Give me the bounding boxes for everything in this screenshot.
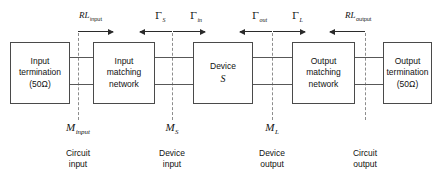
block-output-termination: Output termination (50Ω) xyxy=(383,42,432,104)
plane-caption-device-input: Device input xyxy=(142,148,202,170)
wire-bot-device-to-omn xyxy=(252,84,293,85)
label-gamma-l-subscript: L xyxy=(299,17,303,23)
reference-plane-m-l xyxy=(272,33,273,120)
block-label-s-parameter: S xyxy=(221,73,226,85)
block-label-line1: Output xyxy=(395,56,421,68)
block-label-line2: matching xyxy=(306,67,341,79)
arrow-rl-output xyxy=(330,31,365,32)
plane-caption-line1: Device xyxy=(259,148,285,158)
label-rl-output-symbol: RL xyxy=(345,10,356,20)
wire-top-imn-to-device xyxy=(154,57,194,58)
label-gamma-l: ΓL xyxy=(292,10,303,23)
label-gamma-s: ΓS xyxy=(155,10,165,23)
plane-caption-line1: Device xyxy=(159,148,185,158)
plane-caption-device-output: Device output xyxy=(242,148,302,170)
wire-top-term-to-imn xyxy=(69,57,94,58)
plane-caption-line2: output xyxy=(260,159,284,169)
arrow-gamma-s xyxy=(140,31,172,32)
label-gamma-out: Γout xyxy=(252,10,267,23)
plane-caption-line1: Circuit xyxy=(353,148,377,158)
plane-caption-line2: input xyxy=(69,159,87,169)
label-gamma-s-symbol: Γ xyxy=(155,10,162,21)
label-rl-input-subscript: input xyxy=(90,16,102,22)
block-label-line1: Output xyxy=(311,56,337,68)
block-output-matching-network: Output matching network xyxy=(292,42,355,104)
plane-symbol-m-s-subscript: S xyxy=(175,128,179,136)
block-label-line3: (50Ω) xyxy=(397,79,418,91)
wire-top-omn-to-term xyxy=(354,57,384,58)
reference-plane-m-input xyxy=(78,33,79,120)
plane-symbol-m-input-base: M xyxy=(66,121,75,133)
arrow-gamma-in xyxy=(173,31,205,32)
block-label-line1: Input xyxy=(31,56,50,68)
label-gamma-in: Γin xyxy=(190,10,202,23)
plane-caption-line2: input xyxy=(163,159,181,169)
block-label-line2: termination xyxy=(386,67,428,79)
plane-symbol-m-l-base: M xyxy=(265,121,274,133)
block-label-line2: matching xyxy=(107,67,142,79)
plane-caption-circuit-output: Circuit output xyxy=(335,148,395,170)
plane-caption-line1: Circuit xyxy=(66,148,90,158)
block-label-line2: termination xyxy=(19,67,61,79)
label-rl-output-subscript: output xyxy=(356,16,372,22)
reference-plane-circuit-output xyxy=(365,33,366,120)
label-rl-input: RLinput xyxy=(79,10,102,22)
arrow-rl-input xyxy=(78,31,113,32)
label-gamma-out-symbol: Γ xyxy=(252,10,259,21)
label-gamma-s-subscript: S xyxy=(162,17,166,23)
label-rl-output: RLoutput xyxy=(345,10,371,22)
wire-bot-omn-to-term xyxy=(354,84,384,85)
plane-symbol-m-input: Minput xyxy=(48,121,108,136)
plane-caption-line2: output xyxy=(353,159,377,169)
block-label-line1: Input xyxy=(115,56,134,68)
plane-symbol-m-s: MS xyxy=(142,121,202,136)
label-rl-input-symbol: RL xyxy=(79,10,90,20)
block-device: Device S xyxy=(193,42,253,104)
plane-caption-circuit-input: Circuit input xyxy=(48,148,108,170)
block-label-line3: network xyxy=(309,79,339,91)
block-input-termination: Input termination (50Ω) xyxy=(10,42,70,104)
block-input-matching-network: Input matching network xyxy=(93,42,155,104)
block-label-line3: (50Ω) xyxy=(29,79,50,91)
label-gamma-in-symbol: Γ xyxy=(190,10,197,21)
wire-bot-imn-to-device xyxy=(154,84,194,85)
plane-symbol-m-input-subscript: input xyxy=(75,128,90,136)
arrow-gamma-l xyxy=(273,31,305,32)
plane-symbol-m-l: ML xyxy=(242,121,302,136)
rf-amplifier-block-diagram: Input termination (50Ω) Input matching n… xyxy=(0,0,438,185)
wire-bot-term-to-imn xyxy=(69,84,94,85)
wire-top-device-to-omn xyxy=(252,57,293,58)
block-label-line1: Device xyxy=(210,61,236,73)
arrow-gamma-out xyxy=(240,31,272,32)
block-label-line3: network xyxy=(109,79,139,91)
reference-plane-m-s xyxy=(172,33,173,120)
label-gamma-in-subscript: in xyxy=(197,17,202,23)
plane-symbol-m-s-base: M xyxy=(165,121,174,133)
plane-symbol-m-l-subscript: L xyxy=(274,128,278,136)
label-gamma-l-symbol: Γ xyxy=(292,10,299,21)
label-gamma-out-subscript: out xyxy=(259,17,267,23)
